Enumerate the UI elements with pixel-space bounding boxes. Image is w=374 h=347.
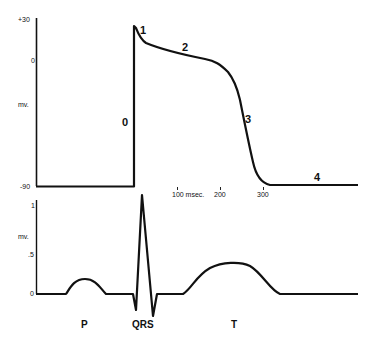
x-tick-label-300: 300 xyxy=(257,191,269,198)
wave-label-t: T xyxy=(231,320,237,330)
phase-label-0: 0 xyxy=(122,117,128,128)
wave-label-qrs: QRS xyxy=(132,320,154,330)
x-tick-label-100: 100 msec. xyxy=(172,191,204,198)
x-tick-200 xyxy=(220,187,221,190)
phase-label-4: 4 xyxy=(314,172,320,183)
bottom-y-unit-label: mv. xyxy=(18,233,29,240)
phase-label-1: 1 xyxy=(140,25,146,36)
ecg-curve xyxy=(36,195,358,316)
phase-label-2: 2 xyxy=(182,42,188,53)
x-tick-300 xyxy=(263,187,264,190)
bottom-y-tick-0: 0 xyxy=(30,290,34,297)
wave-label-p: P xyxy=(81,320,88,330)
top-y-tick-zero: 0 xyxy=(31,57,35,64)
x-tick-100 xyxy=(177,187,178,190)
phase-label-3: 3 xyxy=(245,114,251,125)
bottom-y-tick-half: .5 xyxy=(28,251,34,258)
action-potential-curve xyxy=(36,26,358,187)
top-y-tick-minus90: -90 xyxy=(20,183,30,190)
x-tick-label-200: 200 xyxy=(214,191,226,198)
top-y-unit-label: mv. xyxy=(18,101,29,108)
top-y-tick-plus30: +30 xyxy=(18,16,30,23)
bottom-y-tick-1: 1 xyxy=(31,202,35,209)
